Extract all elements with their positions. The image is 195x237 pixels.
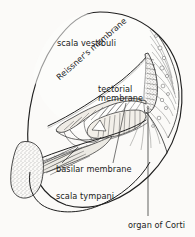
modiolus-bone bbox=[11, 141, 44, 198]
label-organ-of-corti: organ of Corti bbox=[128, 221, 185, 230]
label-tectorial-membrane: tectorialmembrane bbox=[98, 85, 143, 104]
label-basilar-membrane: basilar membrane bbox=[56, 165, 132, 174]
label-scala-tympani: scala tympani bbox=[56, 192, 114, 201]
label-tectorial-membrane-line2: membrane bbox=[98, 93, 143, 103]
cochlea-diagram-figure: scala vestibuli Reissner's membrane tect… bbox=[0, 0, 195, 237]
